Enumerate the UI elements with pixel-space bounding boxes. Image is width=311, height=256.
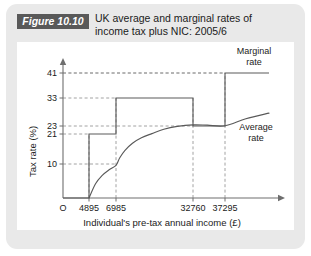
figure-number-badge: Figure 10.10	[17, 14, 89, 29]
y-tick-label-41: 41	[29, 68, 57, 78]
gridlines	[63, 73, 225, 198]
x-tick-label-37295: 37295	[204, 203, 246, 213]
x-axis-title: Individual's pre-tax annual income (£)	[47, 217, 277, 228]
y-axis-title: Tax rate (%)	[27, 126, 38, 177]
figure-title-line-1: UK average and marginal rates of	[95, 12, 295, 25]
series-label-average-rate: Averagerate	[231, 122, 281, 143]
y-tick-label-33: 33	[29, 93, 57, 103]
series-label-line-2: rate	[231, 133, 281, 144]
plot-area: 1021233341 O489569853276037295 Marginalr…	[17, 42, 294, 230]
x-tick-label-6985: 6985	[95, 203, 137, 213]
figure-title: UK average and marginal rates of income …	[95, 12, 295, 37]
series-label-line-1: Average	[231, 122, 281, 133]
series-label-line-2: rate	[229, 57, 279, 68]
figure-title-line-2: income tax plus NIC: 2005/6	[95, 25, 295, 38]
figure-panel: Figure 10.10 UK average and marginal rat…	[6, 4, 305, 249]
figure-header: Figure 10.10 UK average and marginal rat…	[6, 4, 305, 44]
series-label-marginal-rate: Marginalrate	[229, 46, 279, 67]
series-label-line-1: Marginal	[229, 46, 279, 57]
